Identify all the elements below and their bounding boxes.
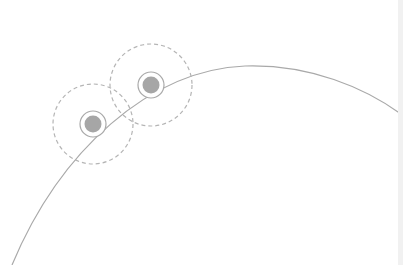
node-2[interactable]	[110, 44, 192, 126]
right-edge-strip	[398, 0, 403, 265]
node-group	[53, 44, 192, 164]
diagram-canvas	[0, 0, 403, 265]
node-dot[interactable]	[143, 77, 160, 94]
node-dot[interactable]	[85, 116, 102, 133]
curve-arc	[12, 66, 401, 265]
node-1[interactable]	[53, 84, 133, 164]
